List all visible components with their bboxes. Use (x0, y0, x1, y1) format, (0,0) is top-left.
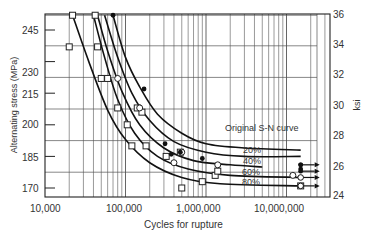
y-tick-label-245: 245 (22, 25, 39, 36)
y-right-tick-24: 24 (333, 190, 344, 201)
y-axis-label-left: Alternating stress (MPa) (9, 45, 19, 165)
open-square-marker (95, 44, 101, 50)
x-tick-label-100000: 100,000 (106, 203, 142, 214)
y-right-tick-34: 34 (333, 39, 344, 50)
open-square-marker (115, 105, 121, 111)
y-tick-label-200: 200 (22, 119, 39, 130)
open-square-marker (143, 143, 149, 149)
y-tick-label-230: 230 (22, 67, 39, 78)
filled-dot-marker (142, 87, 147, 92)
open-circle-marker (171, 160, 177, 166)
open-circle-marker (137, 105, 143, 111)
open-square-marker (179, 185, 185, 191)
x-tick-label-1000000: 1,000,000 (176, 203, 221, 214)
open-square-marker (105, 75, 111, 81)
open-square-marker (66, 44, 72, 50)
filled-dot-marker (200, 156, 205, 161)
x-axis-label: Cycles for rupture (144, 219, 223, 230)
open-circle-marker (115, 75, 121, 81)
curve-label-40: 40% (243, 156, 261, 166)
filled-dot-marker (169, 152, 174, 157)
open-square-marker (215, 168, 221, 174)
open-square-marker (98, 75, 104, 81)
y-right-tick-28: 28 (333, 130, 344, 141)
x-tick-label-10000000: 10,000,000 (254, 203, 304, 214)
sn-curve-chart (0, 0, 371, 233)
y-tick-label-170: 170 (22, 183, 39, 194)
filled-dot-marker (178, 150, 183, 155)
grid-lines (45, 14, 325, 197)
curves (73, 15, 301, 186)
y-right-tick-36: 36 (333, 9, 344, 20)
curve-label-60: 60% (242, 167, 260, 177)
filled-dot-marker (163, 141, 168, 146)
y-right-tick-30: 30 (333, 100, 344, 111)
y-tick-label-185: 185 (22, 152, 39, 163)
open-circle-marker (290, 172, 296, 178)
open-square-marker (92, 12, 98, 18)
filled-dot-marker (111, 13, 116, 18)
open-square-marker (199, 179, 205, 185)
curve-label-20: 20% (243, 145, 261, 155)
open-square-marker (129, 143, 135, 149)
y-right-tick-32: 32 (333, 69, 344, 80)
open-square-marker (163, 153, 169, 159)
x-tick-label-10000: 10,000 (30, 203, 61, 214)
curve-80- (73, 15, 301, 186)
open-square-marker (70, 12, 76, 18)
open-square-marker (124, 122, 130, 128)
y-axis-label-right: ksi (352, 100, 362, 111)
y-tick-label-215: 215 (22, 89, 39, 100)
y-right-tick-26: 26 (333, 161, 344, 172)
open-circle-marker (215, 162, 221, 168)
curve-20- (105, 15, 301, 156)
curve-label-80: 80% (242, 177, 260, 187)
curve-label-original: Original S-N curve (225, 123, 299, 133)
